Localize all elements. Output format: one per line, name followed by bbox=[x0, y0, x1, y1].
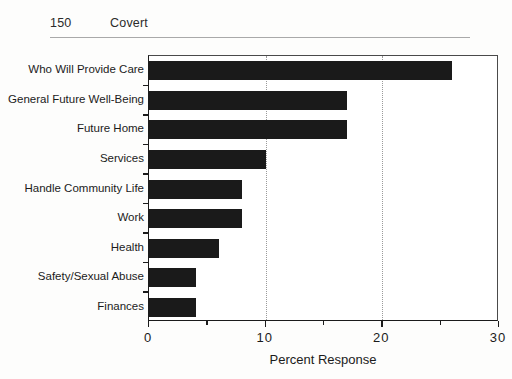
x-axis-title: Percent Response bbox=[148, 352, 498, 367]
header-rule bbox=[50, 37, 470, 38]
bar-fill bbox=[149, 298, 196, 317]
category-label: Health bbox=[0, 238, 144, 257]
x-axis-minor-tick-25 bbox=[440, 321, 441, 325]
bar bbox=[149, 61, 452, 80]
bar bbox=[149, 180, 242, 199]
bar-fill bbox=[149, 268, 196, 287]
bar-chart-plot-area bbox=[148, 55, 498, 321]
bar-fill bbox=[149, 239, 219, 258]
chart-page: 150 Covert Who Will Provide CareGeneral … bbox=[0, 0, 512, 379]
category-axis-labels: Who Will Provide CareGeneral Future Well… bbox=[0, 55, 144, 321]
x-axis-tick-10 bbox=[265, 321, 266, 327]
bar-fill bbox=[149, 120, 347, 139]
category-label: Who Will Provide Care bbox=[0, 60, 144, 79]
x-axis-tick-30 bbox=[498, 321, 499, 327]
x-axis-minor-tick-15 bbox=[323, 321, 324, 325]
category-label: Safety/Sexual Abuse bbox=[0, 267, 144, 286]
bar bbox=[149, 150, 266, 169]
y-axis-tick bbox=[143, 291, 148, 292]
bar bbox=[149, 298, 196, 317]
y-axis-tick bbox=[143, 262, 148, 263]
gridline-20 bbox=[382, 56, 383, 320]
category-label: General Future Well-Being bbox=[0, 90, 144, 109]
y-axis-tick bbox=[143, 173, 148, 174]
category-label: Handle Community Life bbox=[0, 179, 144, 198]
x-axis-tick-20 bbox=[381, 321, 382, 327]
bar bbox=[149, 91, 347, 110]
bar bbox=[149, 239, 219, 258]
bar bbox=[149, 268, 196, 287]
bar-fill bbox=[149, 180, 242, 199]
y-axis-tick bbox=[143, 203, 148, 204]
x-axis-tick-label: 20 bbox=[373, 330, 389, 345]
page-number: 150 bbox=[50, 16, 71, 30]
bar bbox=[149, 209, 242, 228]
y-axis-tick bbox=[143, 232, 148, 233]
running-title: Covert bbox=[110, 16, 148, 30]
bar-fill bbox=[149, 61, 452, 80]
running-header: 150 Covert bbox=[50, 16, 470, 42]
category-label: Work bbox=[0, 208, 144, 227]
x-axis-minor-tick-5 bbox=[206, 321, 207, 325]
x-axis-tick-label: 30 bbox=[490, 330, 506, 345]
bar bbox=[149, 120, 347, 139]
category-label: Future Home bbox=[0, 119, 144, 138]
bar-fill bbox=[149, 209, 242, 228]
x-axis-tick-label: 0 bbox=[144, 330, 152, 345]
y-axis-tick bbox=[143, 85, 148, 86]
bar-fill bbox=[149, 150, 266, 169]
bar-fill bbox=[149, 91, 347, 110]
x-axis-tick-0 bbox=[148, 321, 149, 327]
category-label: Finances bbox=[0, 297, 144, 316]
category-label: Services bbox=[0, 149, 144, 168]
x-axis-tick-label: 10 bbox=[256, 330, 272, 345]
y-axis-tick bbox=[143, 144, 148, 145]
y-axis-tick bbox=[143, 114, 148, 115]
